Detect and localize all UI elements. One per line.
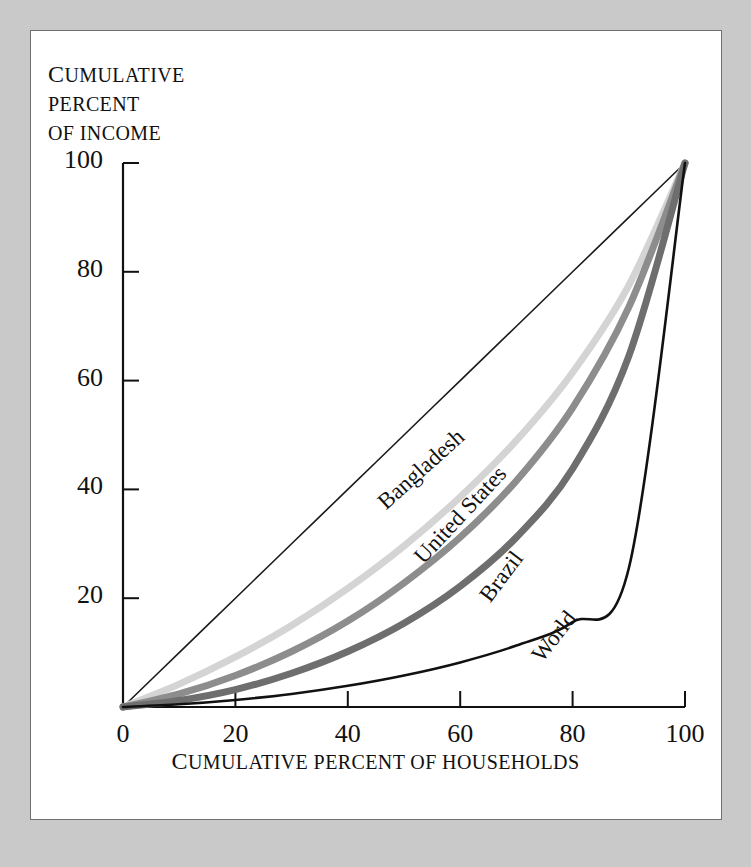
y-axis-title-line2: PERCENT <box>48 90 185 119</box>
x-tick-label-80: 80 <box>538 719 608 749</box>
x-tick-label-40: 40 <box>313 719 383 749</box>
y-tick-label-40: 40 <box>33 471 103 501</box>
y-axis-title-line3: OF INCOME <box>48 119 185 148</box>
x-tick-label-60: 60 <box>425 719 495 749</box>
figure-frame: CUMULATIVE PERCENT OF INCOME CUMULATIVE … <box>0 0 751 867</box>
x-axis-title-cap: C <box>172 748 188 774</box>
y-axis-title: CUMULATIVE PERCENT OF INCOME <box>48 60 185 148</box>
x-axis-title: CUMULATIVE PERCENT OF HOUSEHOLDS <box>0 748 751 775</box>
x-axis-title-rest: UMULATIVE PERCENT OF HOUSEHOLDS <box>188 751 580 773</box>
x-tick-label-100: 100 <box>650 719 720 749</box>
y-axis-title-rest: UMULATIVE <box>64 64 184 86</box>
y-tick-label-60: 60 <box>33 363 103 393</box>
y-axis-title-cap: C <box>48 61 64 87</box>
y-tick-label-100: 100 <box>33 145 103 175</box>
y-tick-label-20: 20 <box>33 580 103 610</box>
x-tick-label-0: 0 <box>88 719 158 749</box>
chart-panel <box>30 30 722 820</box>
y-tick-label-80: 80 <box>33 254 103 284</box>
x-tick-label-20: 20 <box>200 719 270 749</box>
